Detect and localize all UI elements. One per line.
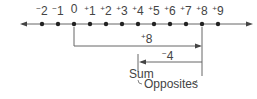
tick-dot	[88, 22, 92, 26]
tick-label: +5	[148, 2, 159, 18]
tick-label: 0	[71, 2, 78, 16]
tick-label: +8	[196, 2, 207, 18]
plus-eight-arrowhead-icon	[195, 44, 202, 49]
left-arrow-icon	[20, 22, 27, 27]
tick-label: +2	[100, 2, 111, 18]
minus-four-label: −4	[162, 47, 173, 63]
tick-label: +7	[180, 2, 191, 18]
tick-dot	[216, 22, 220, 26]
tick-dot	[168, 22, 172, 26]
tick-dot	[184, 22, 188, 26]
tick-label: +1	[84, 2, 95, 18]
tick-dot	[200, 22, 204, 26]
plus-eight-arrow	[74, 27, 200, 46]
tick-label: −1	[52, 2, 63, 18]
tick-label: +6	[164, 2, 175, 18]
tick-dot	[40, 22, 44, 26]
opposites-label: Opposites	[144, 77, 198, 91]
tick-dot	[120, 22, 124, 26]
tick-label: +4	[132, 2, 143, 18]
minus-four-arrowhead-icon	[139, 60, 146, 65]
right-arrow-icon	[246, 22, 253, 27]
tick-label: +9	[212, 2, 223, 18]
plus-eight-label: +8	[141, 30, 152, 46]
tick-dot	[56, 22, 60, 26]
tick-dot	[136, 22, 140, 26]
tick-label: −2	[36, 2, 47, 18]
tick-dot	[72, 22, 76, 26]
tick-dot	[152, 22, 156, 26]
tick-label: +3	[116, 2, 127, 18]
tick-dot	[104, 22, 108, 26]
